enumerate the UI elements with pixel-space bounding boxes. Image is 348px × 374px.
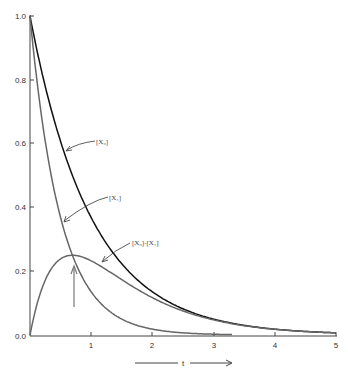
x-tick-label: 3 <box>212 341 217 350</box>
x-tick-label: 4 <box>273 341 278 350</box>
annotation-x1: [X₁] <box>64 194 121 222</box>
label-x0-minus-x1: [X₀]-[X₁] <box>132 239 159 247</box>
chart: 1.0 0.8 0.6 0.4 0.2 0.0 1 2 3 4 5 t [X₀ <box>0 0 348 374</box>
curve-x0 <box>30 16 336 333</box>
label-x0: [X₀] <box>96 138 108 146</box>
curve-x1 <box>30 16 232 335</box>
y-tick-label: 0.4 <box>15 203 27 212</box>
x-axis-label-text: t <box>182 359 185 368</box>
y-tick-label: 1.0 <box>15 12 27 21</box>
x-axis-label: t <box>135 359 232 368</box>
x-tick-label: 2 <box>150 341 155 350</box>
y-tick-label: 0.8 <box>15 76 27 85</box>
x-tick-label: 1 <box>89 341 94 350</box>
annotation-x0: [X₀] <box>66 138 108 151</box>
x-tick-label: 5 <box>334 341 339 350</box>
y-tick-label: 0.2 <box>15 267 27 276</box>
peak-arrow <box>71 266 77 307</box>
y-ticks: 1.0 0.8 0.6 0.4 0.2 0.0 <box>15 12 34 341</box>
curve-x0-minus-x1 <box>30 255 336 335</box>
y-tick-label: 0.0 <box>15 332 27 341</box>
y-tick-label: 0.6 <box>15 139 27 148</box>
label-x1: [X₁] <box>109 194 121 202</box>
